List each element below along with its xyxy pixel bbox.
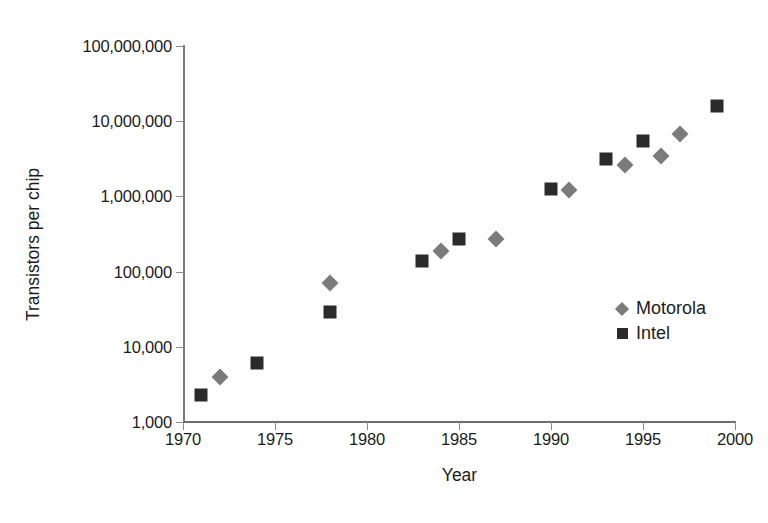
x-axis-tick-label: 2000 [717,430,753,449]
data-point-intel [195,388,208,401]
data-point-motorola [671,125,688,142]
x-axis-tick-mark [367,422,368,430]
data-point-motorola [322,275,339,292]
data-point-motorola [487,231,504,248]
legend-item-intel: Intel [612,321,706,346]
x-axis-tick-mark [183,422,184,430]
data-point-intel [710,99,723,112]
x-axis-tick-mark [459,422,460,430]
chart-legend: MotorolaIntel [612,296,706,346]
data-point-intel [545,183,558,196]
x-axis-tick-mark [643,422,644,430]
data-point-motorola [432,242,449,259]
square-marker-icon [612,328,632,339]
x-axis-tick-mark [735,422,736,430]
legend-item-motorola: Motorola [612,296,706,321]
data-point-intel [453,232,466,245]
x-axis-title: Year [183,465,736,486]
data-point-motorola [561,182,578,199]
x-axis-tick-label: 1980 [349,430,385,449]
plot-area [183,46,735,422]
y-axis-tick-label: 100,000,000 [82,37,172,56]
x-axis-tick-label: 1995 [625,430,661,449]
diamond-marker-icon [612,304,632,314]
data-point-motorola [211,368,228,385]
x-axis-tick-label: 1975 [257,430,293,449]
legend-swatch [615,301,629,315]
x-axis-tick-mark [275,422,276,430]
x-axis-tick-label: 1985 [441,430,477,449]
legend-swatch [617,328,628,339]
y-axis-tick-label: 1,000,000 [100,187,172,206]
data-point-intel [250,357,263,370]
y-axis-tick-label: 1,000 [132,413,172,432]
legend-label: Intel [632,323,670,344]
data-point-intel [324,306,337,319]
data-point-intel [600,153,613,166]
chart-container: Transistors per chip 1,00010,000100,0001… [0,0,768,523]
y-axis-tick-label: 100,000 [114,262,172,281]
y-axis-tick-label: 10,000,000 [91,112,172,131]
y-axis-tick-label: 10,000 [123,337,172,356]
y-axis-tick-labels: 1,00010,000100,0001,000,00010,000,000100… [0,0,172,523]
x-axis-tick-label: 1970 [165,430,201,449]
data-point-intel [637,134,650,147]
x-axis-tick-label: 1990 [533,430,569,449]
legend-label: Motorola [632,298,706,319]
data-point-motorola [653,148,670,165]
data-point-motorola [616,157,633,174]
x-axis-tick-mark [551,422,552,430]
data-point-intel [416,254,429,267]
